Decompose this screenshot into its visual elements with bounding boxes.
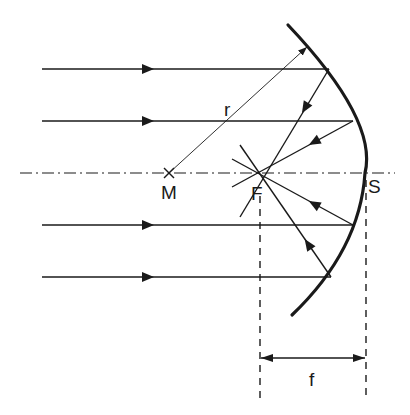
arrow-icon [298,100,313,115]
label-focal-length-f: f [309,369,315,390]
label-radius-r: r [224,99,231,120]
arrow-icon [142,116,154,126]
label-focus-f: F [251,183,263,204]
concave-mirror-diagram: M F S r f [0,0,410,415]
arrow-icon [142,64,154,74]
center-marker-icon [164,168,174,178]
arrow-icon [306,135,321,150]
reflected-arrowheads [298,100,322,251]
focal-guides [260,180,366,400]
arrow-icon [300,236,315,252]
arrow-icon [142,220,154,230]
label-center-m: M [161,182,177,203]
label-vertex-s: S [368,176,381,197]
reflected-ray-4 [240,145,331,277]
arrow-icon [142,272,154,282]
radius-line [169,47,307,173]
arrow-icon [306,197,321,212]
